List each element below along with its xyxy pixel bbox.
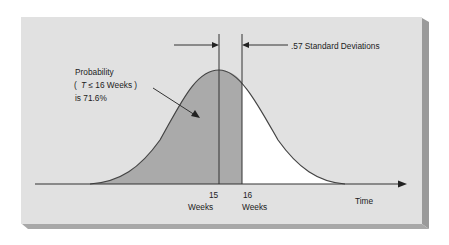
annotation-condition: ≤ 16 Weeks ) bbox=[88, 80, 137, 90]
annotation-paren: ( bbox=[74, 80, 77, 90]
annotation-line-2: ( T ≤ 16 Weeks ) bbox=[74, 80, 137, 90]
tick-15-unit: Weeks bbox=[188, 202, 213, 212]
panel-shadow-right bbox=[422, 18, 429, 229]
std-dev-label: .57 Standard Deviations bbox=[291, 41, 380, 51]
tick-16-value: 16 bbox=[243, 190, 253, 200]
x-axis-label: Time bbox=[355, 196, 374, 206]
diagram-canvas: .57 Standard Deviations Probability ( T … bbox=[0, 0, 449, 245]
tick-16-unit: Weeks bbox=[242, 202, 267, 212]
tick-15-value: 15 bbox=[209, 190, 219, 200]
annotation-line-3: is 71.6% bbox=[75, 93, 107, 103]
annotation-line-1: Probability bbox=[75, 67, 115, 77]
panel-shadow-bottom bbox=[22, 224, 429, 229]
annotation-variable-t: T bbox=[81, 80, 87, 90]
